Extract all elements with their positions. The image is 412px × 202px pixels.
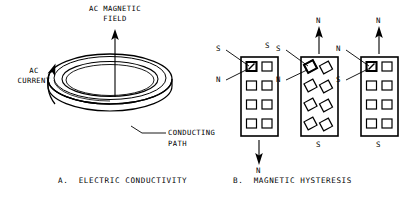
ac-current-label-line2: CURRENT xyxy=(8,76,60,85)
panel-a-electric-conductivity xyxy=(48,29,173,133)
block-2-leader-label-s: S xyxy=(276,44,280,53)
block-3-top-label: N xyxy=(376,16,380,25)
block-1-leader-label-s: S xyxy=(216,44,220,53)
caption-panel-a: A. ELECTRIC CONDUCTIVITY xyxy=(58,176,187,185)
ac-magnetic-field-label-line2: FIELD xyxy=(63,14,167,23)
field-arrow-up xyxy=(315,26,323,54)
block-1-leader-label-n: N xyxy=(216,75,220,84)
conducting-path-label-line2: PATH xyxy=(168,139,258,148)
block-1-arrow-label: N xyxy=(256,166,260,175)
block-1-top-label: S xyxy=(265,41,269,50)
ac-current-label-line1: AC xyxy=(8,66,60,75)
block-2-top-label: N xyxy=(316,16,320,25)
block-3-leader-label-s: S xyxy=(336,75,340,84)
block-2-bottom-label: S xyxy=(316,140,320,149)
block-2-tilted-domains xyxy=(286,26,338,136)
conducting-path-leader xyxy=(131,126,166,133)
block-3-leader-label-n: N xyxy=(336,44,340,53)
field-arrow-up xyxy=(375,26,383,54)
conducting-ring xyxy=(48,54,172,111)
conducting-path-label-line1: CONDUCTING xyxy=(168,128,258,137)
caption-panel-b: B. MAGNETIC HYSTERESIS xyxy=(233,176,352,185)
block-3-aligned-domains xyxy=(346,26,398,136)
ac-magnetic-field-arrow xyxy=(111,29,119,97)
block-2-leader-label-n: N xyxy=(276,75,280,84)
technical-diagram xyxy=(0,0,412,202)
block-3-bottom-label: S xyxy=(376,140,380,149)
ac-magnetic-field-label-line1: AC MAGNETIC xyxy=(63,4,167,13)
